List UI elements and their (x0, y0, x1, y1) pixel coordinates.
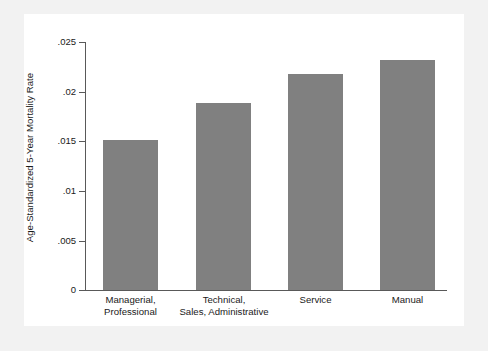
y-tick-mark-0 (79, 290, 85, 291)
y-tick-label-015: .015 (0, 136, 76, 146)
y-tick-mark-005 (79, 241, 85, 242)
y-tick-label-02-wrap: .02 (0, 87, 76, 97)
x-category-label-service: Service (275, 294, 356, 306)
y-tick-mark-025 (79, 42, 85, 43)
plot-area: Age-Standardized 5-Year Mortality Rate .… (0, 0, 488, 351)
y-tick-label-01: .01 (0, 186, 76, 196)
y-tick-mark-01 (79, 191, 85, 192)
bar-service (288, 74, 343, 291)
y-tick-mark-015 (79, 141, 85, 142)
y-tick-label-005: .005 (0, 236, 76, 246)
y-tick-label-025-wrap: .025 (0, 37, 76, 47)
y-tick-mark-02 (79, 92, 85, 93)
y-tick-label-0: 0 (0, 285, 76, 295)
y-tick-label-02: .02 (0, 87, 76, 97)
y-tick-label-01-wrap: .01 (0, 186, 76, 196)
bar-manual (380, 60, 435, 291)
x-category-label-technical-sales-administrative: Technical, Sales, Administrative (160, 294, 288, 317)
bar-technical-sales-administrative (196, 103, 251, 291)
x-axis-line (85, 290, 447, 291)
y-tick-label-015-wrap: .015 (0, 136, 76, 146)
bar-managerial-professional (103, 140, 158, 290)
chart-figure: Age-Standardized 5-Year Mortality Rate .… (0, 0, 488, 351)
x-category-label-manual: Manual (367, 294, 448, 306)
y-tick-label-0-wrap: 0 (0, 285, 76, 295)
y-tick-label-005-wrap: .005 (0, 236, 76, 246)
y-tick-label-025: .025 (0, 37, 76, 47)
y-axis-line (85, 42, 86, 291)
